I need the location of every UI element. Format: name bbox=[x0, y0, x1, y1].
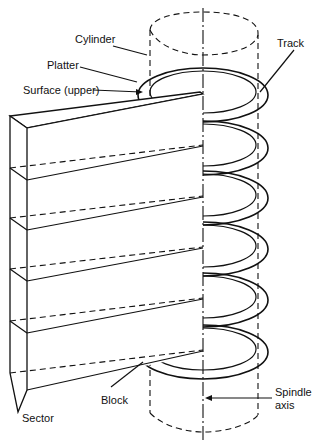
label-surface-upper: Surface (upper) bbox=[23, 84, 99, 96]
label-track: Track bbox=[277, 37, 305, 49]
label-sector: Sector bbox=[22, 412, 54, 424]
label-block: Block bbox=[101, 394, 128, 406]
disk-geometry-diagram: Cylinder Platter Surface (upper) Track B… bbox=[0, 0, 317, 447]
sector-wedge bbox=[10, 92, 203, 412]
label-cylinder: Cylinder bbox=[75, 33, 116, 45]
label-platter: Platter bbox=[47, 59, 79, 71]
label-spindle: Spindle bbox=[275, 386, 312, 398]
label-spindle-axis: axis bbox=[275, 399, 295, 411]
